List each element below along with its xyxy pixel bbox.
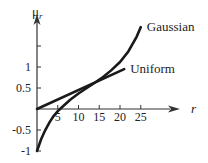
series-gaussian-line [37, 27, 141, 151]
ticks: 51015202510.5-0.5-1 [12, 46, 147, 158]
y-tick-label: -1 [21, 144, 31, 158]
legend-uniform: Uniform [130, 61, 175, 76]
y-axis-label: μr [32, 4, 43, 21]
axes [34, 14, 181, 152]
y-tick-label: 1 [25, 60, 31, 74]
y-tick-label: 0.5 [16, 81, 31, 95]
x-tick-label: 10 [73, 110, 85, 124]
x-tick-label: 25 [135, 110, 147, 124]
x-axis-label: r [191, 101, 197, 116]
x-tick-label: 20 [114, 110, 126, 124]
curves [37, 27, 141, 151]
legend-gaussian: Gaussian [147, 19, 195, 34]
chart: μr r 51015202510.5-0.5-1 GaussianUniform [0, 0, 208, 163]
y-tick-label: -0.5 [12, 123, 31, 137]
x-tick-label: 15 [93, 110, 105, 124]
series-uniform-line [37, 69, 124, 109]
